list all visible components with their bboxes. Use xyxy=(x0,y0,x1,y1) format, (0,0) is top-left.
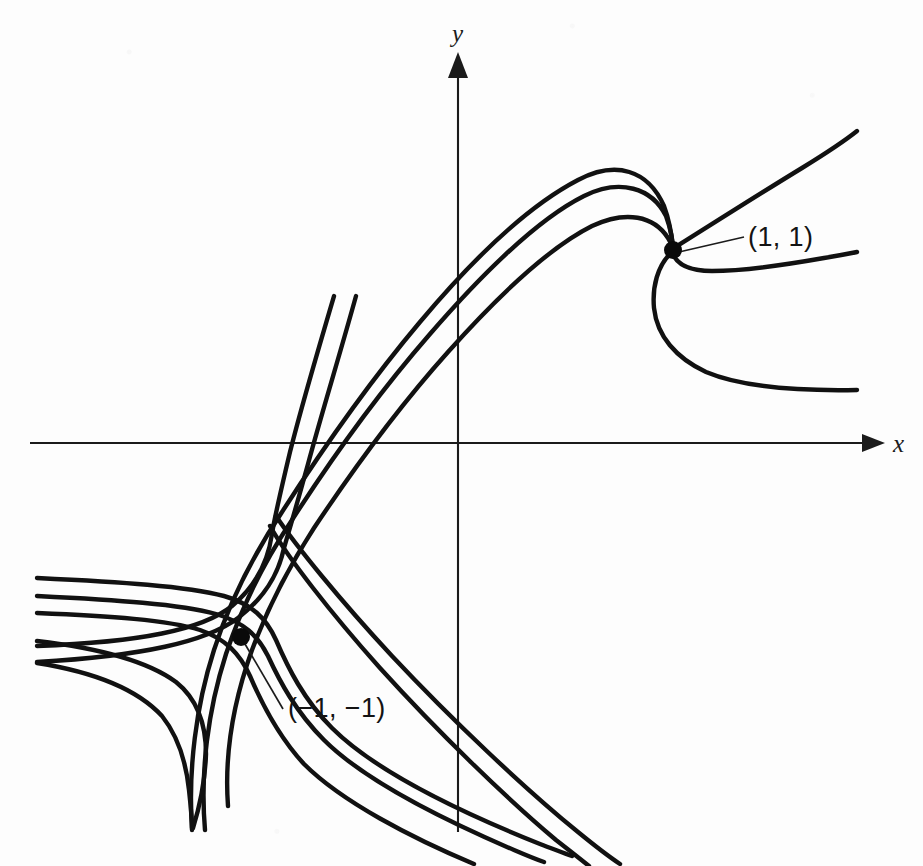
curve-family xyxy=(37,131,857,866)
curve-diagonal-exit-1 xyxy=(276,516,620,864)
axes-group: x y xyxy=(30,20,904,832)
y-axis-arrowhead xyxy=(448,52,468,78)
curve-outer-arc-2 xyxy=(204,187,673,830)
curve-right-branch-lower-loop xyxy=(654,254,857,390)
curve-left-entry-5 xyxy=(37,663,192,830)
saddle-point-lower-label: (−1, −1) xyxy=(288,693,386,723)
curve-outer-arc-1 xyxy=(191,170,673,828)
figure-canvas: x y xyxy=(0,0,923,866)
saddle-point-lower-marker xyxy=(232,628,250,646)
curve-cusp-bundle-1 xyxy=(37,296,334,646)
saddle-point-upper-marker xyxy=(664,241,682,259)
curve-cusp-bundle-2 xyxy=(37,296,356,662)
curve-left-entry-2 xyxy=(37,596,544,862)
y-axis-label: y xyxy=(449,20,464,47)
saddle-point-upper-label: (1, 1) xyxy=(748,222,813,252)
curve-right-branch-middle xyxy=(672,252,857,271)
x-axis-label: x xyxy=(892,430,904,457)
level-curve-diagram: x y xyxy=(0,0,923,866)
x-axis-arrowhead xyxy=(862,434,885,452)
